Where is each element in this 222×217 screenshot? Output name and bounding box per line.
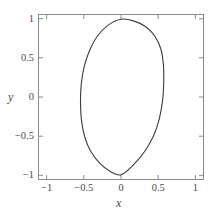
- figure-canvas: −1 −0.5 0 0.5 1 −1 −0.5 0 0.5 1 x y: [0, 0, 222, 217]
- y-tick-label: 1: [0, 13, 34, 24]
- axes-frame: [39, 15, 204, 180]
- x-axis-title: x: [116, 197, 121, 209]
- data-curve: [80, 19, 163, 175]
- x-tick-label: 0.5: [152, 183, 165, 194]
- x-tick-label: −1: [41, 183, 52, 194]
- y-tick-label: 0: [0, 92, 34, 103]
- x-tick-label: −0.5: [74, 183, 93, 194]
- x-tick-marks: [47, 15, 196, 180]
- y-axis-title: y: [8, 91, 13, 103]
- x-tick-label: 1: [193, 183, 198, 194]
- y-tick-label: −0.5: [0, 131, 34, 142]
- y-tick-label: 0.5: [0, 53, 34, 64]
- plot-area: [0, 0, 222, 217]
- x-tick-label: 0: [118, 183, 123, 194]
- y-tick-label: −1: [0, 170, 34, 181]
- y-tick-marks: [39, 19, 204, 176]
